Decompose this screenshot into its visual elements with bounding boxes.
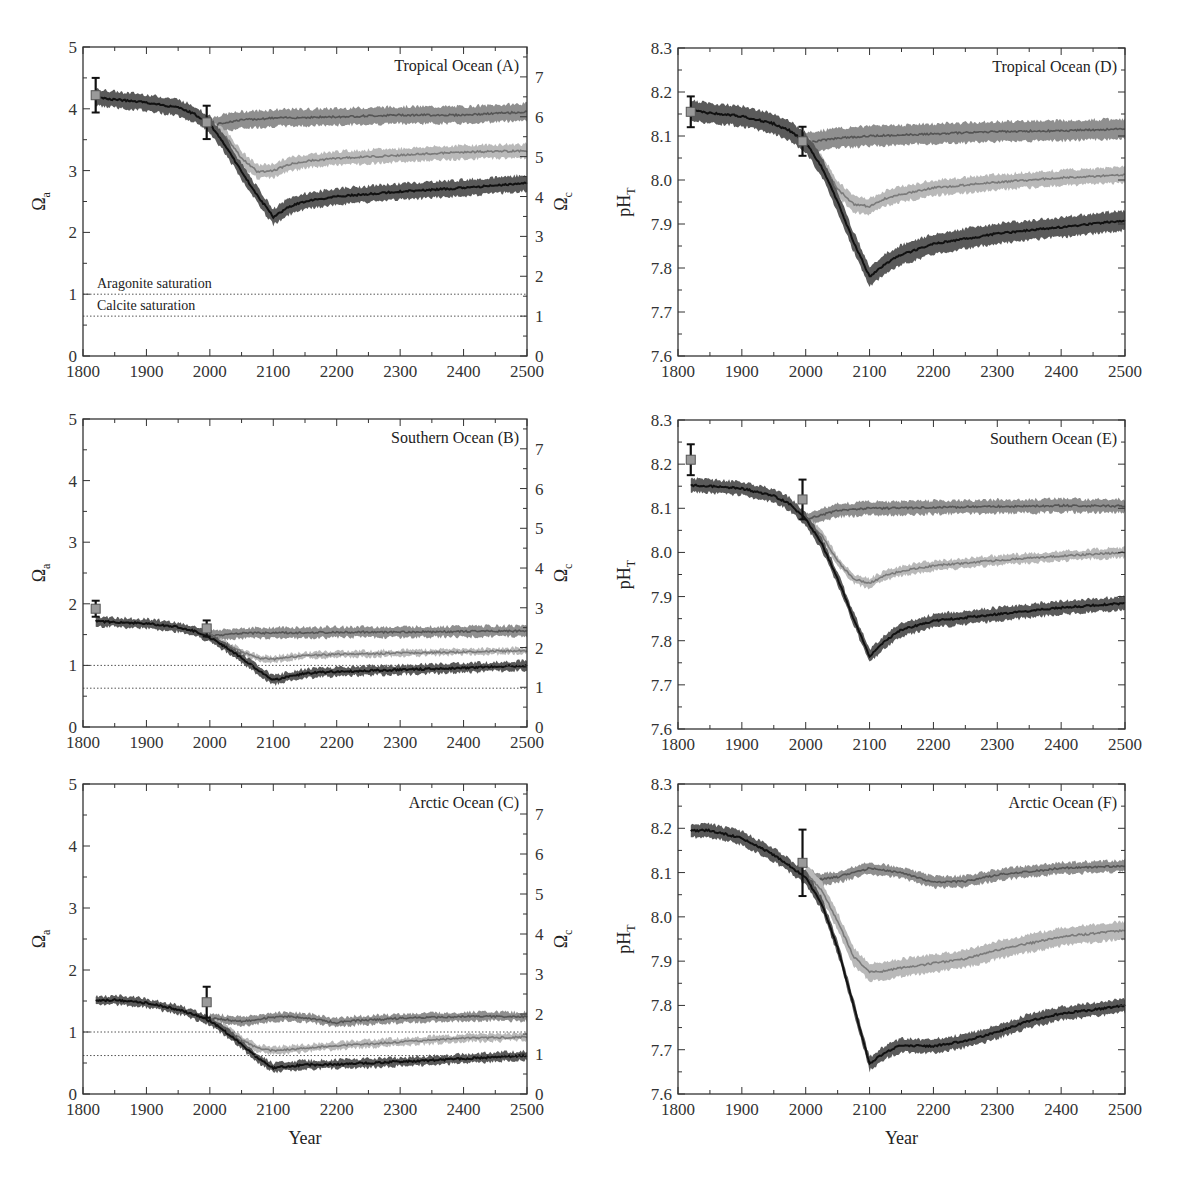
x-tick-label: 2200 <box>320 733 354 752</box>
x-tick-label: 2400 <box>1044 362 1078 381</box>
right-y-tick-label: 4 <box>535 188 544 207</box>
y-tick-label: 2 <box>69 223 78 242</box>
right-y-tick-label: 0 <box>535 347 544 366</box>
x-tick-label: 1900 <box>129 1100 163 1119</box>
x-tick-label: 2000 <box>193 1100 227 1119</box>
x-tick-label: 2200 <box>916 735 950 754</box>
x-tick-label: 2100 <box>256 362 290 381</box>
y-tick-label: 7.6 <box>651 720 672 739</box>
y-tick-label: 4 <box>69 100 78 119</box>
right-y-tick-label: 7 <box>535 440 544 459</box>
y-tick-label: 7.6 <box>651 1085 672 1104</box>
x-tick-label: 1900 <box>725 1100 759 1119</box>
x-tick-label: 2000 <box>193 362 227 381</box>
observation-marker <box>91 601 100 617</box>
x-tick-label: 2100 <box>256 733 290 752</box>
x-tick-label: 2300 <box>383 733 417 752</box>
uncertainty-band-low <box>806 859 1125 890</box>
x-axis-title: Year <box>288 1128 321 1148</box>
x-tick-label: 2000 <box>789 1100 823 1119</box>
x-tick-label: 2400 <box>447 362 481 381</box>
x-tick-label: 2200 <box>916 362 950 381</box>
y-tick-label: 0 <box>69 347 78 366</box>
x-tick-label: 1900 <box>129 362 163 381</box>
y-tick-label: 1 <box>69 1023 78 1042</box>
uncertainty-band-low <box>210 102 527 135</box>
x-tick-label: 2400 <box>1044 1100 1078 1119</box>
panel-c: 1800190020002100220023002400250001234501… <box>29 775 575 1148</box>
x-tick-label: 2100 <box>853 735 887 754</box>
y-tick-label: 8.2 <box>651 83 672 102</box>
right-y-tick-label: 5 <box>535 519 544 538</box>
x-tick-label: 2200 <box>320 1100 354 1119</box>
x-tick-label: 2400 <box>447 733 481 752</box>
panel-title: Tropical Ocean (D) <box>992 58 1117 76</box>
y-tick-label: 8.0 <box>651 171 672 190</box>
y-tick-label: 8.1 <box>651 499 672 518</box>
y-tick-label: 7.7 <box>651 676 673 695</box>
uncertainty-band-mid <box>210 635 527 664</box>
y-tick-label: 2 <box>69 961 78 980</box>
y-tick-label: 7.6 <box>651 347 672 366</box>
right-y-tick-label: 2 <box>535 267 544 286</box>
x-tick-label: 2500 <box>1108 735 1142 754</box>
panel-title: Tropical Ocean (A) <box>394 57 519 75</box>
y-tick-label: 5 <box>69 38 78 57</box>
x-tick-label: 2300 <box>980 362 1014 381</box>
y-tick-label: 7.8 <box>651 632 672 651</box>
aragonite-saturation-label: Aragonite saturation <box>97 276 212 291</box>
observation-marker <box>686 444 695 475</box>
y-tick-label: 7.9 <box>651 952 672 971</box>
y-axis-title: Ωa <box>29 563 53 582</box>
x-tick-label: 2300 <box>383 1100 417 1119</box>
y-tick-label: 5 <box>69 410 78 429</box>
right-y-tick-label: 4 <box>535 925 544 944</box>
right-y-tick-label: 3 <box>535 227 544 246</box>
right-y-tick-label: 5 <box>535 148 544 167</box>
y-tick-label: 7.9 <box>651 588 672 607</box>
y-tick-label: 8.1 <box>651 864 672 883</box>
y-tick-label: 1 <box>69 656 78 675</box>
right-y-tick-label: 0 <box>535 1085 544 1104</box>
x-tick-label: 1900 <box>725 735 759 754</box>
observation-marker <box>798 830 807 896</box>
y-tick-label: 8.2 <box>651 819 672 838</box>
y-tick-label: 3 <box>69 533 78 552</box>
y-tick-label: 8.0 <box>651 908 672 927</box>
panel-title: Arctic Ocean (C) <box>409 794 519 812</box>
y-tick-label: 8.3 <box>651 411 672 430</box>
right-y-tick-label: 6 <box>535 845 544 864</box>
right-y-tick-label: 7 <box>535 805 544 824</box>
y-axis-title: Ωa <box>29 929 53 948</box>
y-axis-title: pHT <box>614 559 638 589</box>
right-y-tick-label: 7 <box>535 68 544 87</box>
right-y-axis-title: Ωc <box>551 192 575 211</box>
y-tick-label: 8.3 <box>651 775 672 794</box>
panel-title: Arctic Ocean (F) <box>1009 794 1117 812</box>
right-y-axis-title: Ωc <box>551 930 575 949</box>
x-tick-label: 2300 <box>383 362 417 381</box>
y-tick-label: 8.3 <box>651 39 672 58</box>
x-tick-label: 2400 <box>1044 735 1078 754</box>
right-y-axis-title: Ωc <box>551 564 575 583</box>
y-tick-label: 7.7 <box>651 303 673 322</box>
right-y-tick-label: 2 <box>535 639 544 658</box>
observation-marker <box>202 106 211 139</box>
x-tick-label: 1900 <box>129 733 163 752</box>
right-y-tick-label: 5 <box>535 885 544 904</box>
x-tick-label: 2000 <box>789 735 823 754</box>
right-y-tick-label: 2 <box>535 1005 544 1024</box>
right-y-tick-label: 1 <box>535 307 544 326</box>
uncertainty-band-low <box>806 497 1125 526</box>
y-tick-label: 4 <box>69 472 78 491</box>
right-y-tick-label: 3 <box>535 599 544 618</box>
right-y-tick-label: 6 <box>535 480 544 499</box>
y-tick-label: 7.9 <box>651 215 672 234</box>
x-tick-label: 2200 <box>320 362 354 381</box>
x-tick-label: 2300 <box>980 735 1014 754</box>
ocean-acidification-figure: Aragonite saturationCalcite saturation18… <box>0 0 1180 1182</box>
right-y-tick-label: 0 <box>535 718 544 737</box>
y-axis-title: Ωa <box>29 191 53 210</box>
panel-title: Southern Ocean (B) <box>391 429 519 447</box>
calcite-saturation-label: Calcite saturation <box>97 298 195 313</box>
